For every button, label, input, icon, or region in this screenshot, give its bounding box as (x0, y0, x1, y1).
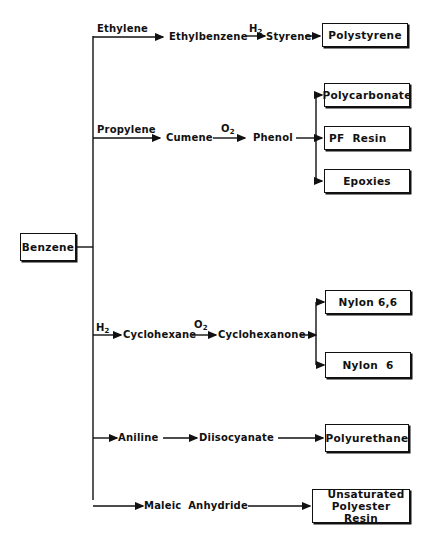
phenol-label: Phenol (253, 132, 293, 144)
h2-reagent-1: H2 (249, 23, 263, 38)
maleic-anhydride-label: Maleic Anhydride (144, 500, 248, 512)
nylon6-box: Nylon 6 (325, 352, 411, 378)
polystyrene-label: Polystyrene (328, 29, 402, 41)
o2-reagent-1: O2 (221, 123, 235, 138)
connector-lines (0, 0, 430, 536)
polyurethane-box: Polyurethane (325, 424, 409, 452)
polyester-resin-box: Unsaturated Polyester Resin (312, 489, 410, 523)
ethylbenzene-label: Ethylbenzene (169, 31, 248, 43)
benzene-label: Benzene (22, 241, 75, 253)
aniline-label: Aniline (118, 432, 158, 444)
nylon66-box: Nylon 6,6 (325, 290, 411, 314)
polystyrene-box: Polystyrene (322, 23, 408, 47)
pf-resin-box: PF Resin (324, 126, 410, 150)
benzene-box: Benzene (20, 233, 76, 261)
polycarbonate-box: Polycarbonate (324, 83, 410, 107)
epoxies-box: Epoxies (324, 169, 410, 193)
cyclohexane-label: Cyclohexane (123, 329, 196, 341)
ethylene-label: Ethylene (97, 23, 148, 35)
diisocyanate-label: Diisocyanate (199, 432, 274, 444)
propylene-label: Propylene (97, 124, 156, 136)
cyclohexanone-label: Cyclohexanone (218, 329, 306, 341)
o2-reagent-2: O2 (194, 319, 208, 334)
styrene-label: Styrene (266, 31, 312, 43)
cumene-label: Cumene (166, 132, 213, 144)
h2-reagent-2: H2 (96, 322, 110, 337)
